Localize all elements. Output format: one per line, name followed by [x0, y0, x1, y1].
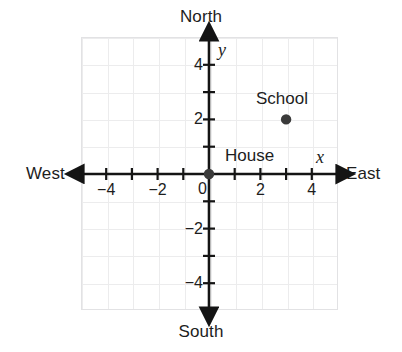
axes-overlay [0, 0, 402, 352]
x-tick-label: −4 [86, 181, 126, 199]
x-tick-label: 0 [198, 180, 218, 198]
y-tick-label: 4 [163, 56, 203, 74]
y-tick-label: −2 [163, 220, 203, 238]
coordinate-plane-figure: North South West East [0, 0, 402, 352]
point-label-school: School [256, 89, 308, 109]
data-point-school [281, 114, 291, 124]
x-tick-label: −2 [138, 181, 178, 199]
data-point-house [204, 169, 214, 179]
x-tick-label: 4 [292, 181, 332, 199]
x-tick-label: 2 [240, 181, 280, 199]
x-axis-letter-label: x [316, 147, 324, 168]
point-label-house: House [225, 146, 274, 166]
y-tick-label: −4 [163, 274, 203, 292]
y-tick-label: 2 [163, 110, 203, 128]
y-axis-letter-label: y [218, 40, 226, 61]
